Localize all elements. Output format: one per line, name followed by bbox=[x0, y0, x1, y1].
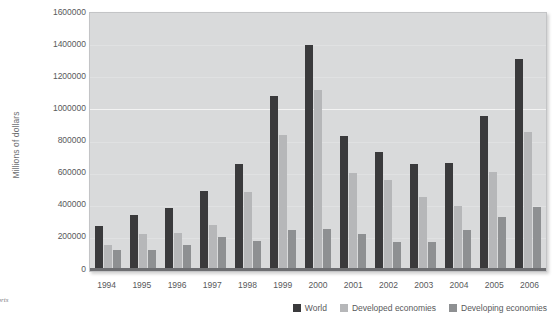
bar bbox=[384, 180, 392, 268]
bar bbox=[305, 45, 313, 268]
bar bbox=[533, 207, 541, 268]
y-tick-label: 1600000 bbox=[22, 8, 86, 17]
bar bbox=[183, 245, 191, 268]
bar-group bbox=[125, 13, 160, 268]
bar bbox=[270, 96, 278, 268]
bar bbox=[515, 59, 523, 268]
bar bbox=[200, 191, 208, 268]
bar-group bbox=[300, 13, 335, 268]
legend-label: Developed economies bbox=[352, 303, 436, 313]
legend-entry[interactable]: Developed economies bbox=[340, 303, 436, 313]
bar-group bbox=[441, 13, 476, 268]
bar bbox=[489, 172, 497, 268]
legend-entry[interactable]: World bbox=[293, 303, 327, 313]
bar bbox=[174, 233, 182, 268]
x-tick-label: 1995 bbox=[124, 280, 159, 290]
bar bbox=[323, 229, 331, 268]
legend-entry[interactable]: Developing economies bbox=[449, 303, 547, 313]
y-tick-label: 400000 bbox=[22, 200, 86, 209]
x-tick-label: 1999 bbox=[265, 280, 300, 290]
bar bbox=[104, 245, 112, 268]
bar-group bbox=[90, 13, 125, 268]
bar-group bbox=[265, 13, 300, 268]
y-tick-label: 200000 bbox=[22, 232, 86, 241]
source-note-line-2: N) bbox=[0, 305, 101, 314]
legend-label: Developing economies bbox=[461, 303, 547, 313]
plot-inner bbox=[90, 13, 546, 271]
bar-group bbox=[336, 13, 371, 268]
bar bbox=[130, 215, 138, 268]
bar-group bbox=[511, 13, 546, 268]
bar bbox=[340, 136, 348, 268]
y-tick-label: 1200000 bbox=[22, 72, 86, 81]
bar bbox=[314, 90, 322, 268]
bar bbox=[524, 132, 532, 268]
bar-group bbox=[195, 13, 230, 268]
bar bbox=[218, 237, 226, 268]
x-tick-label: 2001 bbox=[336, 280, 371, 290]
bar-group bbox=[160, 13, 195, 268]
bar bbox=[279, 135, 287, 268]
bar bbox=[113, 250, 121, 268]
x-tick-label: 2005 bbox=[477, 280, 512, 290]
legend-label: World bbox=[305, 303, 327, 313]
legend-swatch-icon bbox=[449, 304, 457, 312]
bar bbox=[445, 163, 453, 268]
y-tick-label: 800000 bbox=[22, 136, 86, 145]
x-tick-label: 2002 bbox=[371, 280, 406, 290]
bar bbox=[139, 234, 147, 268]
bar-group bbox=[371, 13, 406, 268]
source-note: eports N) bbox=[0, 296, 101, 314]
bar bbox=[288, 230, 296, 268]
x-tick-label: 2000 bbox=[300, 280, 335, 290]
bar bbox=[463, 230, 471, 268]
x-axis-tick-labels: 1994199519961997199819992000200120022003… bbox=[89, 280, 547, 290]
y-tick-label: 600000 bbox=[22, 168, 86, 177]
bars-layer bbox=[90, 13, 546, 268]
bar bbox=[235, 164, 243, 268]
bar bbox=[209, 225, 217, 268]
chart-legend: WorldDeveloped economiesDeveloping econo… bbox=[89, 303, 549, 313]
bar bbox=[165, 208, 173, 268]
y-axis-tick-labels: 0200000400000600000800000100000012000001… bbox=[22, 0, 86, 321]
bar bbox=[454, 206, 462, 268]
x-tick-label: 1994 bbox=[89, 280, 124, 290]
bar bbox=[428, 242, 436, 269]
bar-group bbox=[230, 13, 265, 268]
x-tick-label: 1996 bbox=[159, 280, 194, 290]
bar bbox=[244, 192, 252, 268]
x-tick-label: 1997 bbox=[195, 280, 230, 290]
x-axis-baseline bbox=[90, 268, 546, 271]
bar-chart-figure: Millions of dollars 02000004000006000008… bbox=[0, 0, 558, 321]
bar bbox=[148, 250, 156, 268]
bar bbox=[480, 116, 488, 268]
bar bbox=[253, 241, 261, 268]
legend-swatch-icon bbox=[340, 304, 348, 312]
bar bbox=[393, 242, 401, 269]
y-tick-label: 0 bbox=[22, 265, 86, 274]
plot-area bbox=[89, 12, 547, 272]
x-tick-label: 1998 bbox=[230, 280, 265, 290]
y-tick-label: 1400000 bbox=[22, 40, 86, 49]
bar-group bbox=[406, 13, 441, 268]
bar bbox=[419, 197, 427, 268]
x-tick-label: 2006 bbox=[512, 280, 547, 290]
x-tick-label: 2003 bbox=[406, 280, 441, 290]
bar bbox=[95, 226, 103, 268]
y-tick-label: 1000000 bbox=[22, 104, 86, 113]
bar bbox=[375, 152, 383, 268]
bar bbox=[349, 173, 357, 268]
legend-swatch-icon bbox=[293, 304, 301, 312]
y-axis-title: Millions of dollars bbox=[11, 85, 21, 205]
bar bbox=[498, 217, 506, 268]
bar-group bbox=[476, 13, 511, 268]
x-tick-label: 2004 bbox=[441, 280, 476, 290]
bar bbox=[410, 164, 418, 268]
bar bbox=[358, 234, 366, 268]
source-note-line-1: eports bbox=[0, 296, 101, 305]
